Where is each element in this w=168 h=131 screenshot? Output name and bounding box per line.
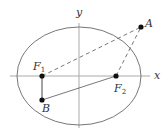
segment-f2-a xyxy=(116,27,141,76)
ellipse-diagram: y x A F1 F2 B xyxy=(0,0,168,131)
label-b: B xyxy=(41,102,50,115)
point-f2 xyxy=(113,73,118,78)
label-f1-main: F xyxy=(32,60,41,73)
y-axis-label: y xyxy=(75,6,83,19)
label-f2-sub: 2 xyxy=(122,88,126,96)
point-f1 xyxy=(39,73,44,78)
label-f2: F2 xyxy=(113,82,126,96)
point-a xyxy=(138,24,143,29)
label-a: A xyxy=(144,17,153,30)
x-axis-label: x xyxy=(154,69,161,82)
label-f2-main: F xyxy=(113,82,122,95)
label-f1-sub: 1 xyxy=(41,66,45,74)
label-f1: F1 xyxy=(32,60,45,74)
segment-f1-a xyxy=(42,27,141,76)
